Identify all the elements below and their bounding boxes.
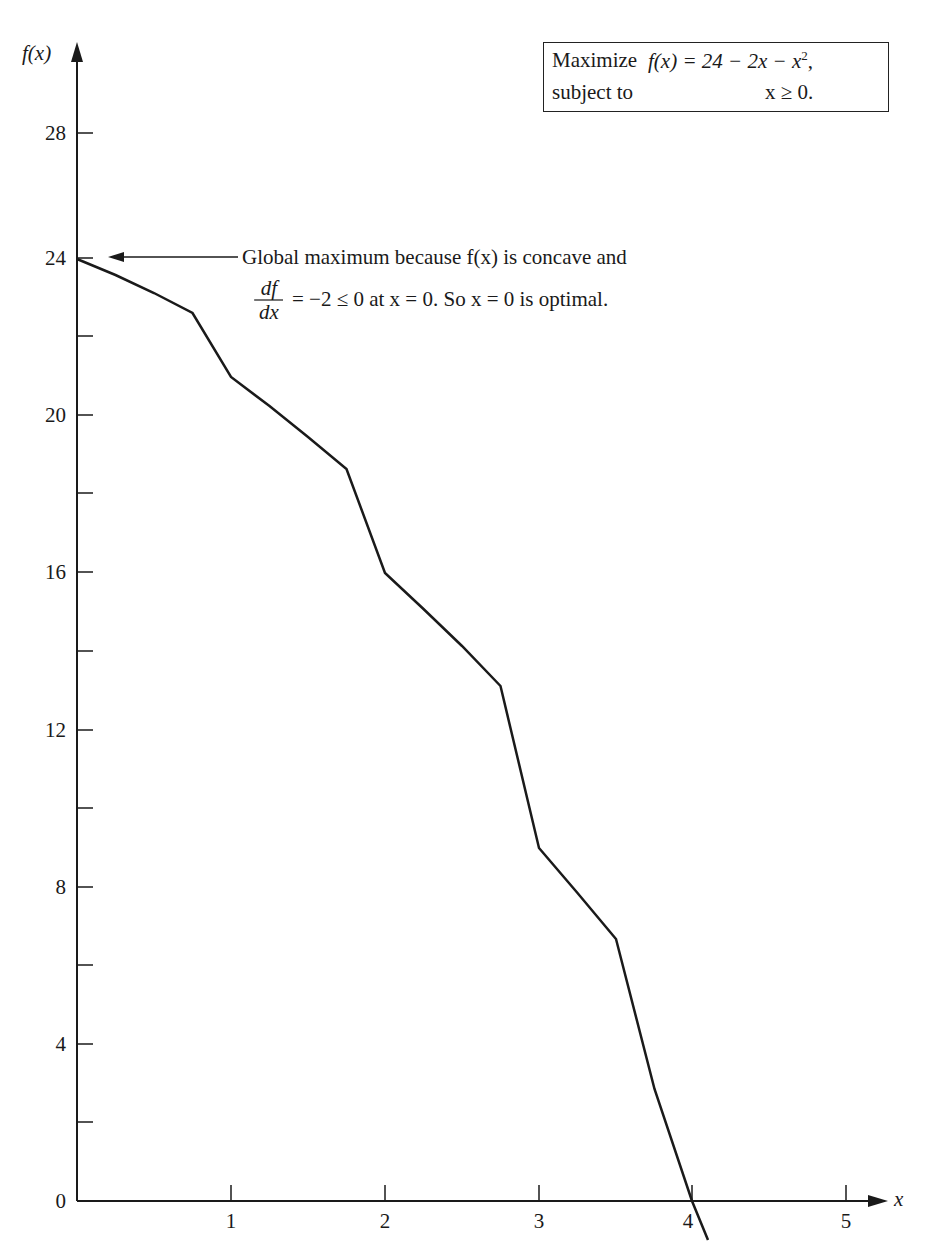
x-ticks <box>231 1185 846 1201</box>
y-tick-label: 24 <box>45 246 67 270</box>
x-tick-label: 3 <box>534 1209 545 1233</box>
x-tick-label: 2 <box>380 1209 391 1233</box>
box-line1-label: Maximize <box>552 48 637 72</box>
y-tick-label: 28 <box>45 121 66 145</box>
annotation-line2: = −2 ≤ 0 at x = 0. So x = 0 is optimal. <box>292 287 608 312</box>
chart-canvas: 0 4 8 12 16 20 24 28 1 2 3 4 5 f(x) x <box>0 0 932 1251</box>
y-tick-label: 8 <box>56 875 67 899</box>
x-tick-label: 5 <box>841 1209 852 1233</box>
annotation-line1: Global maximum because f(x) is concave a… <box>242 245 627 270</box>
y-tick-label: 20 <box>45 403 66 427</box>
y-tick-label: 16 <box>45 560 66 584</box>
function-curve <box>77 259 708 1240</box>
y-axis-arrow-icon <box>71 42 83 62</box>
y-ticks <box>77 133 93 1122</box>
arrow-head-icon <box>108 252 124 262</box>
box-line2-expression: x ≥ 0. <box>765 80 813 105</box>
x-axis-title: x <box>893 1187 904 1211</box>
box-line1-expression: f(x) = 24 − 2x − x2, <box>648 48 813 74</box>
y-axis-title: f(x) <box>22 41 51 65</box>
fraction-denominator: dx <box>254 300 284 325</box>
box-line2-label: subject to <box>552 80 633 104</box>
x-tick-label: 1 <box>226 1209 237 1233</box>
x-tick-label: 4 <box>683 1209 694 1233</box>
y-tick-label: 0 <box>56 1189 67 1213</box>
y-tick-label: 4 <box>56 1032 67 1056</box>
problem-statement-box: Maximize f(x) = 24 − 2x − x2, subject to… <box>543 42 889 112</box>
y-tick-label: 12 <box>45 718 66 742</box>
fraction-numerator: df <box>254 276 284 301</box>
x-axis-arrow-icon <box>868 1195 888 1207</box>
